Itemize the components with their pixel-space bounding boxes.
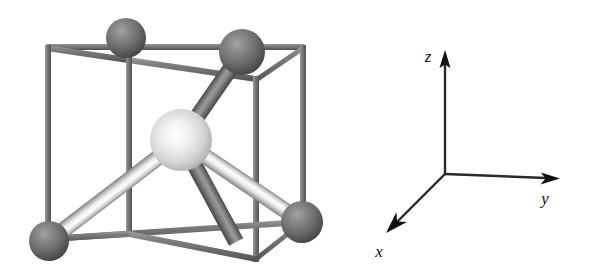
cell-edge-vertical-front-right xyxy=(253,76,259,262)
cell-edge-vertical-back-right xyxy=(300,45,306,225)
corner-atom-top-back-right xyxy=(219,29,265,75)
central-atom xyxy=(150,109,212,171)
corner-atom-bottom-front-right xyxy=(281,201,323,243)
axis-z-label: z xyxy=(424,47,432,66)
cell-edge-vertical-back-left xyxy=(45,45,51,242)
cell-edge-vertical-front-left xyxy=(126,57,132,237)
axis-y-label: y xyxy=(539,189,549,208)
crystal-structure-figure: z y x xyxy=(0,0,593,273)
axis-x-label: x xyxy=(374,242,383,261)
corner-atom-top-back-left xyxy=(106,18,146,58)
corner-atom-bottom-front-left xyxy=(29,221,69,261)
cell-edge-top-back xyxy=(46,44,304,50)
